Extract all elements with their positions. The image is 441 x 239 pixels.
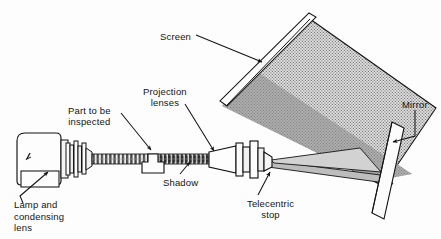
- label-telecentric-stop: Telecentric stop: [247, 198, 294, 220]
- lamp-housing: [17, 133, 68, 187]
- label-shadow: Shadow: [163, 177, 198, 188]
- optical-comparator-diagram: [0, 0, 441, 239]
- label-projection-lenses: Projection lenses: [143, 86, 187, 108]
- label-screen: Screen: [160, 31, 191, 42]
- telecentric-stop: [264, 152, 272, 171]
- projection-lens: [209, 141, 264, 178]
- label-lamp-and-condensing-lens: Lamp and condensing lens: [14, 199, 64, 234]
- condenser-stack: [66, 141, 92, 177]
- leader-projection: [185, 104, 214, 151]
- leader-part: [121, 113, 151, 150]
- label-mirror: Mirror: [402, 99, 428, 110]
- stop-aperture: [264, 152, 272, 171]
- label-part-to-be-inspected: Part to be inspected: [68, 105, 111, 127]
- leader-telecentric: [258, 172, 270, 195]
- leader-screen: [196, 35, 262, 62]
